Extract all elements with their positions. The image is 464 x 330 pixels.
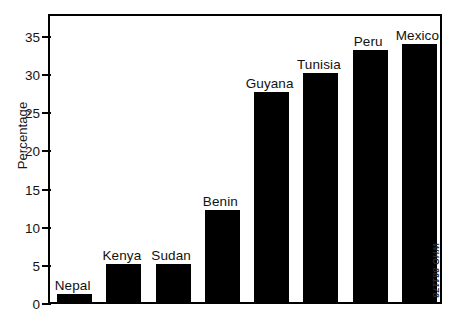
y-axis-tick xyxy=(42,265,51,267)
y-axis-tick xyxy=(42,74,51,76)
bar-label-peru: Peru xyxy=(354,34,383,49)
bar-label-nepal: Nepal xyxy=(55,278,91,293)
y-axis-tick-label: 5 xyxy=(6,258,40,273)
y-axis-tick-label: 20 xyxy=(6,144,40,159)
y-axis-tick-label: 15 xyxy=(6,182,40,197)
y-axis-tick-label: 30 xyxy=(6,68,40,83)
bar-label-kenya: Kenya xyxy=(102,248,141,263)
bar-label-benin: Benin xyxy=(203,194,238,209)
bar-label-mexico: Mexico xyxy=(396,28,439,43)
bar-label-sudan: Sudan xyxy=(151,248,191,263)
bar-benin xyxy=(205,210,240,302)
y-axis-tick xyxy=(42,303,51,305)
y-axis-tick-label: 0 xyxy=(6,297,40,312)
bar-tunisia xyxy=(303,73,338,302)
y-axis-tick-label: 10 xyxy=(6,220,40,235)
bar-chart-figure: Percentage 05101520253035 WHO 881178 Nep… xyxy=(0,0,464,330)
bar-label-guyana: Guyana xyxy=(246,76,294,91)
bar-kenya xyxy=(106,264,141,302)
bar-sudan xyxy=(156,264,191,302)
y-axis-tick-label: 25 xyxy=(6,106,40,121)
bar-guyana xyxy=(254,92,289,302)
y-axis-tick xyxy=(42,227,51,229)
y-axis-tick-label: 35 xyxy=(6,29,40,44)
y-axis-tick xyxy=(42,189,51,191)
y-axis-tick xyxy=(42,112,51,114)
bar-label-tunisia: Tunisia xyxy=(297,57,341,72)
y-axis-tick xyxy=(42,150,51,152)
y-axis-tick xyxy=(42,36,51,38)
who-credit-label: WHO 881178 xyxy=(431,243,441,298)
y-axis-tick-labels: 05101520253035 xyxy=(0,0,40,330)
bar-peru xyxy=(353,50,388,302)
bar-nepal xyxy=(57,294,92,302)
